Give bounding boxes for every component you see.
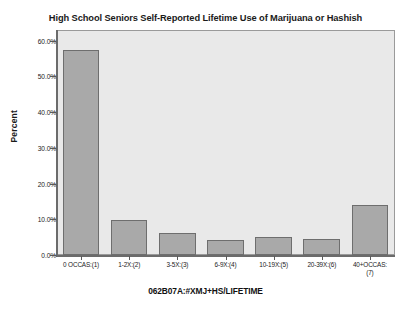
x-tick-mark [274, 256, 275, 260]
bar-series [57, 30, 394, 255]
bar[interactable] [159, 233, 196, 255]
y-tick: 50.0% [0, 76, 56, 77]
x-tick-label: 6-9X:(4) [215, 261, 237, 269]
x-tick-label: 0 OCCAS:(1) [63, 261, 99, 269]
x-tick-mark [81, 256, 82, 260]
bar[interactable] [207, 240, 244, 255]
x-tick-mark [177, 256, 178, 260]
x-tick-mark [226, 256, 227, 260]
y-tick-mark [50, 184, 56, 185]
y-tick-mark [50, 219, 56, 220]
bar-slot [201, 30, 249, 255]
y-tick-mark [50, 148, 56, 149]
y-tick: 10.0% [0, 219, 56, 220]
y-tick-mark [50, 76, 56, 77]
bar[interactable] [111, 220, 148, 255]
bar-slot [250, 30, 298, 255]
x-tick-label: 40+OCCAS: (7) [353, 261, 387, 277]
y-tick: 0.0% [0, 255, 56, 256]
bar[interactable] [63, 50, 100, 255]
bar-slot [57, 30, 105, 255]
y-tick-mark [50, 41, 56, 42]
bar-slot [346, 30, 394, 255]
x-tick-mark [129, 256, 130, 260]
bar[interactable] [255, 237, 292, 255]
x-tick-mark [370, 256, 371, 260]
x-tick-label: 3-5X:(3) [166, 261, 188, 269]
y-tick: 20.0% [0, 184, 56, 185]
bar-chart-figure: High School Seniors Self-Reported Lifeti… [0, 0, 411, 313]
x-axis-title: 062B07A:#XMJ+HS/LIFETIME [0, 286, 411, 296]
bar-slot [298, 30, 346, 255]
x-tick-mark [322, 256, 323, 260]
bar-slot [105, 30, 153, 255]
y-tick: 40.0% [0, 112, 56, 113]
y-tick: 30.0% [0, 148, 56, 149]
bar[interactable] [303, 239, 340, 255]
bar-slot [153, 30, 201, 255]
x-tick-label: 10-19X:(5) [259, 261, 288, 269]
x-tick-label: 20-39X:(6) [307, 261, 336, 269]
y-tick-mark [50, 112, 56, 113]
x-tick-label: 1-2X:(2) [118, 261, 140, 269]
bar[interactable] [352, 205, 389, 255]
chart-title: High School Seniors Self-Reported Lifeti… [0, 13, 411, 23]
y-tick-mark [50, 255, 56, 256]
y-tick: 60.0% [0, 41, 56, 42]
